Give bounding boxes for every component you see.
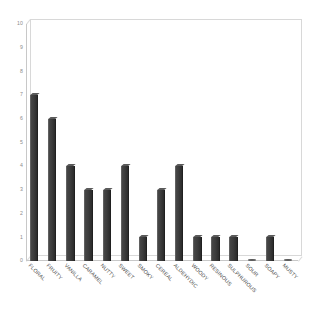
y-axis-tick-label: 5 bbox=[20, 140, 23, 145]
y-axis-tick-label: 4 bbox=[20, 163, 23, 168]
plot-depth-edge-bottom-right bbox=[298, 256, 303, 262]
bar-column bbox=[103, 24, 111, 261]
x-axis-tick-label: SOUR bbox=[244, 263, 259, 278]
bar-top-face bbox=[211, 235, 221, 237]
y-axis-tick-label: 7 bbox=[20, 92, 23, 97]
bar-top-face bbox=[157, 188, 167, 190]
bar-column bbox=[139, 24, 147, 261]
y-axis-tick-label: 1 bbox=[20, 235, 23, 240]
bar-column bbox=[30, 24, 38, 261]
bar-top-face bbox=[229, 235, 239, 237]
bar-column bbox=[284, 24, 292, 261]
y-axis-tick-label: 10 bbox=[17, 21, 23, 26]
bar-top-face bbox=[48, 117, 58, 119]
bar-chart: 012345678910 FLORALFRUITYVANILLACARAMELN… bbox=[0, 0, 322, 329]
bar-column bbox=[48, 24, 56, 261]
bar-column bbox=[66, 24, 74, 261]
bar-top-face bbox=[121, 164, 131, 166]
x-axis-tick-label: FRUITY bbox=[45, 263, 63, 281]
bar-column bbox=[121, 24, 129, 261]
bar bbox=[193, 237, 201, 261]
bar bbox=[139, 237, 147, 261]
bar-column bbox=[229, 24, 237, 261]
bar-column bbox=[211, 24, 219, 261]
x-axis-tick-label: MUSTY bbox=[281, 263, 299, 281]
x-axis-category-labels: FLORALFRUITYVANILLACARAMELNUTTYSWEETSMOK… bbox=[26, 263, 298, 329]
bar-column bbox=[175, 24, 183, 261]
y-axis-tick-label: 0 bbox=[20, 258, 23, 263]
bar-column bbox=[248, 24, 256, 261]
bar bbox=[30, 95, 38, 261]
bar bbox=[229, 237, 237, 261]
y-axis-tick-label: 3 bbox=[20, 187, 23, 192]
bar-zero-marker bbox=[284, 259, 292, 261]
y-axis-tick-label: 9 bbox=[20, 45, 23, 50]
y-axis-tick-label: 8 bbox=[20, 69, 23, 74]
bar bbox=[266, 237, 274, 261]
y-axis: 012345678910 bbox=[0, 0, 26, 329]
bar-zero-marker bbox=[248, 259, 256, 261]
x-axis-tick-label: NUTTY bbox=[99, 263, 116, 280]
bar-top-face bbox=[66, 164, 76, 166]
bar-top-face bbox=[84, 188, 94, 190]
bar bbox=[121, 166, 129, 261]
y-axis-tick-label: 6 bbox=[20, 116, 23, 121]
x-axis-tick-label: FLORAL bbox=[27, 263, 46, 282]
bar-column bbox=[157, 24, 165, 261]
bar bbox=[211, 237, 219, 261]
bar-column bbox=[193, 24, 201, 261]
bar bbox=[103, 190, 111, 261]
bar bbox=[66, 166, 74, 261]
x-axis-tick-label: CEREAL bbox=[154, 263, 174, 283]
x-axis-tick-label: SOAPY bbox=[263, 263, 280, 280]
x-axis-tick-label: SMOKY bbox=[136, 263, 154, 281]
bar-top-face bbox=[175, 164, 185, 166]
y-axis-tick-label: 2 bbox=[20, 211, 23, 216]
x-axis-tick-label: SWEET bbox=[118, 263, 136, 281]
bar bbox=[175, 166, 183, 261]
bar-column bbox=[266, 24, 274, 261]
bar bbox=[48, 119, 56, 261]
bar-top-face bbox=[266, 235, 276, 237]
bar-top-face bbox=[193, 235, 203, 237]
bar bbox=[157, 190, 165, 261]
bar-series bbox=[26, 24, 298, 261]
bar-column bbox=[84, 24, 92, 261]
x-axis-tick-label: VANILLA bbox=[63, 263, 83, 283]
bar-top-face bbox=[139, 235, 149, 237]
bar-top-face bbox=[103, 188, 113, 190]
bar-top-face bbox=[30, 93, 40, 95]
bar bbox=[84, 190, 92, 261]
